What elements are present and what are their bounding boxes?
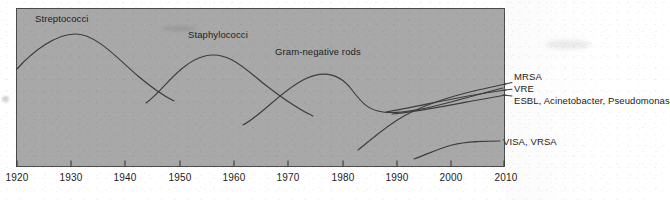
leader-line-mrsa bbox=[503, 83, 512, 85]
side-label-vre: VRE bbox=[514, 83, 534, 94]
curve-staphylococci bbox=[146, 55, 313, 116]
axis-label-1920: 1920 bbox=[5, 172, 28, 183]
curve-streptococci bbox=[17, 34, 174, 101]
axis-label-1950: 1950 bbox=[168, 172, 191, 183]
curve-visa-vrsa bbox=[414, 142, 477, 160]
side-label-mrsa: MRSA bbox=[514, 71, 542, 82]
curve-gram-negative-rods bbox=[243, 74, 503, 125]
axis-label-2010: 2010 bbox=[494, 172, 517, 183]
axis-label-1990: 1990 bbox=[385, 172, 408, 183]
x-axis-ticks bbox=[17, 161, 504, 167]
axis-label-1940: 1940 bbox=[113, 172, 136, 183]
leader-line-visa-vrsa bbox=[474, 141, 500, 142]
axis-label-2000: 2000 bbox=[439, 172, 462, 183]
axis-label-1930: 1930 bbox=[59, 172, 82, 183]
curve-vre bbox=[386, 90, 506, 112]
side-label-visa-vrsa: VISA, VRSA bbox=[503, 136, 557, 147]
curve-label-staphylococci: Staphylococci bbox=[188, 29, 248, 40]
side-label-esbl-acinetobacter-pseudomonas: ESBL, Acinetobacter, Pseudomonas bbox=[514, 95, 670, 106]
curve-label-streptococci: Streptococci bbox=[35, 13, 88, 24]
axis-label-1960: 1960 bbox=[222, 172, 245, 183]
curve-label-gram-negative-rods: Gram-negative rods bbox=[275, 46, 361, 57]
axis-label-1970: 1970 bbox=[276, 172, 299, 183]
axis-label-1980: 1980 bbox=[331, 172, 354, 183]
leader-line-vre bbox=[503, 89, 512, 90]
